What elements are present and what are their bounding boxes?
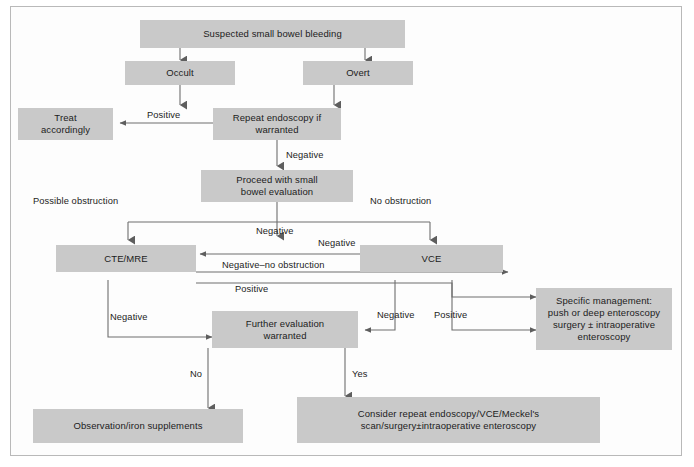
node-label: CTE/MRE [104, 253, 147, 265]
label-negative-no-obstruction: Negative–no obstruction [222, 260, 325, 270]
node-suspected-small-bowel-bleeding: Suspected small bowel bleeding [140, 20, 405, 48]
edge-vce-further-negative [365, 280, 395, 330]
label-negative-to-proceed: Negative [286, 150, 324, 160]
node-label: Observation/iron supplements [73, 420, 202, 432]
node-treat-accordingly: Treat accordingly [18, 108, 113, 140]
label-negative-vce-to-cte: Negative [318, 238, 356, 248]
node-label-line2: bowel evaluation [241, 186, 313, 198]
node-consider-repeat-endoscopy: Consider repeat endoscopy/VCE/Meckel's s… [297, 397, 600, 443]
label-negative-vce-to-further: Negative [377, 310, 415, 320]
node-label-line1: Treat [54, 112, 76, 124]
flowchart-figure: Suspected small bowel bleeding Occult Ov… [0, 0, 694, 467]
label-possible-obstruction: Possible obstruction [33, 196, 118, 206]
node-proceed-with-small-bowel-evaluation: Proceed with small bowel evaluation [201, 170, 353, 202]
label-negative-branch: Negative [256, 226, 294, 236]
node-label: VCE [422, 253, 442, 265]
label-positive-vce-to-management: Positive [434, 310, 467, 320]
node-cte-mre: CTE/MRE [56, 245, 196, 272]
node-label-line1: Further evaluation [246, 318, 324, 330]
node-vce: VCE [360, 245, 503, 272]
label-positive-to-treat: Positive [147, 110, 180, 120]
node-label-line1: Specific management: [556, 295, 652, 307]
node-specific-management: Specific management: push or deep entero… [536, 288, 672, 350]
node-observation-iron-supplements: Observation/iron supplements [33, 409, 243, 443]
node-label-line3: surgery ± intraoperative [553, 319, 655, 331]
label-positive-cte-to-management: Positive [235, 284, 268, 294]
node-label: Suspected small bowel bleeding [203, 28, 342, 40]
node-label-line1: Consider repeat endoscopy/VCE/Meckel's [358, 408, 539, 420]
node-label-line1: Repeat endoscopy if [233, 112, 322, 124]
node-label-line2: push or deep enteroscopy [548, 307, 660, 319]
label-yes-branch: Yes [352, 369, 367, 379]
node-occult: Occult [125, 61, 235, 85]
node-label-line2: accordingly [41, 124, 90, 136]
node-repeat-endoscopy-if-warranted: Repeat endoscopy if warranted [213, 108, 341, 140]
label-no-obstruction: No obstruction [370, 196, 431, 206]
label-no-branch: No [190, 369, 202, 379]
node-overt: Overt [303, 61, 413, 85]
label-negative-cte-to-further: Negative [110, 312, 148, 322]
node-label-line2: scan/surgery±intraoperative enteroscopy [361, 420, 536, 432]
node-label-line2: warranted [255, 124, 298, 136]
node-label-line4: enteroscopy [578, 331, 631, 343]
node-label: Occult [166, 67, 194, 79]
edge-cte-further-negative [108, 280, 212, 337]
node-further-evaluation-warranted: Further evaluation warranted [212, 311, 358, 348]
node-label-line2: warranted [263, 330, 306, 342]
node-label-line1: Proceed with small [236, 174, 318, 186]
edge-vce-mgmt-positive [452, 280, 536, 330]
node-label: Overt [346, 67, 370, 79]
